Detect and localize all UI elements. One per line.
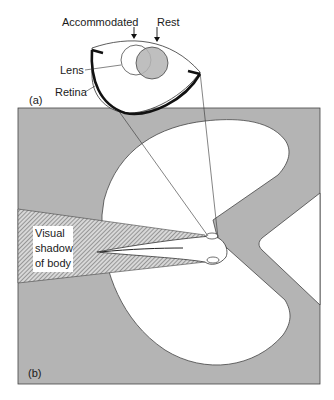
eye-diagram: Visual shadow of body (b) Accommodated R… [0,0,334,400]
panel-a: Accommodated Rest Lens Retina (a) [29,16,200,114]
lens-label: Lens [60,64,84,76]
panel-b-tag: (b) [28,367,41,379]
rest-label: Rest [157,16,180,28]
panel-a-tag: (a) [29,94,42,106]
panel-b: Visual shadow of body (b) [18,108,320,384]
retina-label: Retina [55,86,88,98]
lens-rest [136,47,168,79]
accommodated-label: Accommodated [62,16,138,28]
shadow-label-line-2: shadow [35,242,73,254]
shadow-label-line-1: Visual [35,227,65,239]
fish-eye-bottom [207,257,219,263]
rest-arrowhead-icon [154,37,160,42]
shadow-label-line-3: of body [35,257,72,269]
accommodated-arrowhead-icon [131,34,137,39]
